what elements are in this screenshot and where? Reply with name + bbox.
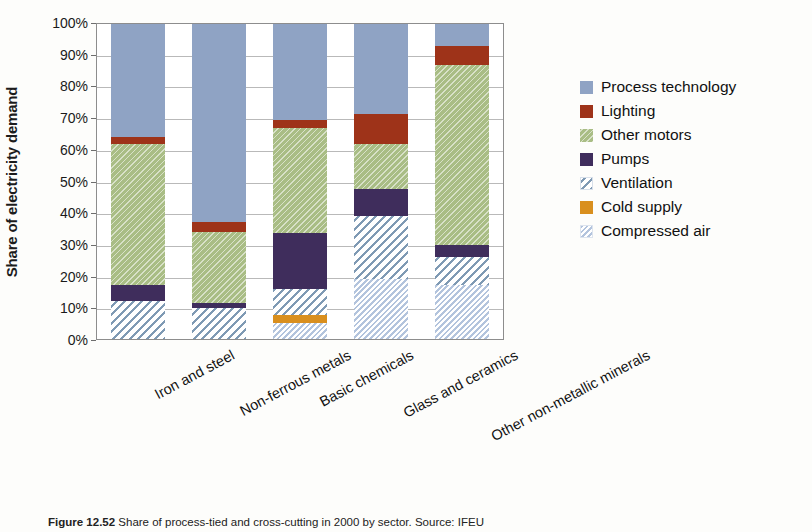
bar-segment-other-motors: [273, 128, 327, 234]
legend-swatch-process-technology: [580, 81, 593, 94]
legend-item[interactable]: Compressed air: [580, 222, 736, 240]
bar-non-ferrous-metals[interactable]: [192, 24, 246, 339]
bar-segment-process-technology: [354, 24, 408, 114]
y-axis-tick-labels: 0%10%20%30%40%50%60%70%80%90%100%: [44, 23, 92, 340]
bar-segment-ventilation: [111, 301, 165, 339]
bar-basic-chemicals[interactable]: [273, 24, 327, 339]
legend-item-label: Lighting: [601, 102, 655, 120]
legend-item-label: Process technology: [601, 78, 736, 96]
legend-item[interactable]: Process technology: [580, 78, 736, 96]
stacked-bar-chart: Share of electricity demand 0%10%20%30%4…: [0, 0, 812, 532]
bar-segment-compressed-air: [273, 323, 327, 339]
bar-other-non-metallic-minerals[interactable]: [435, 24, 489, 339]
legend-item[interactable]: Other motors: [580, 126, 736, 144]
legend-swatch-pumps: [580, 153, 593, 166]
y-axis-tick-label: 20%: [60, 269, 88, 285]
y-axis-tickmark: [91, 340, 96, 341]
legend-item[interactable]: Pumps: [580, 150, 736, 168]
legend-item[interactable]: Lighting: [580, 102, 736, 120]
x-axis-label-iron-and-steel: Iron and steel: [152, 347, 237, 402]
legend-item-label: Cold supply: [601, 198, 682, 216]
y-axis-tick-label: 60%: [60, 142, 88, 158]
bar-segment-compressed-air: [435, 285, 489, 339]
legend-item[interactable]: Cold supply: [580, 198, 736, 216]
y-axis-tick-label: 70%: [60, 110, 88, 126]
figure-caption: Figure 12.52 Share of process-tied and c…: [48, 516, 788, 528]
legend-swatch-compressed-air: [580, 225, 593, 238]
legend-item[interactable]: Ventilation: [580, 174, 736, 192]
y-axis-title: Share of electricity demand: [0, 22, 24, 342]
bar-segment-lighting: [273, 120, 327, 128]
y-axis-tick-label: 40%: [60, 205, 88, 221]
bar-segment-compressed-air: [354, 279, 408, 339]
bar-segment-lighting: [192, 222, 246, 231]
bar-segment-process-technology: [111, 24, 165, 137]
legend-swatch-lighting: [580, 105, 593, 118]
caption-text: Share of process-tied and cross-cutting …: [118, 516, 484, 528]
bar-segment-process-technology: [435, 24, 489, 46]
bar-iron-and-steel[interactable]: [111, 24, 165, 339]
legend-swatch-cold-supply: [580, 201, 593, 214]
x-axis-label-glass-and-ceramics: Glass and ceramics: [401, 347, 521, 421]
bar-segment-lighting: [435, 46, 489, 65]
bar-segment-pumps: [111, 285, 165, 301]
bar-glass-and-ceramics[interactable]: [354, 24, 408, 339]
bar-segment-other-motors: [192, 232, 246, 303]
legend-swatch-other-motors: [580, 129, 593, 142]
bar-segment-other-motors: [111, 144, 165, 286]
y-axis-tick-label: 50%: [60, 174, 88, 190]
legend-swatch-ventilation: [580, 177, 593, 190]
bar-segment-ventilation: [435, 257, 489, 285]
bar-segment-pumps: [435, 245, 489, 258]
chart-legend: Process technologyLightingOther motorsPu…: [580, 78, 736, 240]
x-axis-label-non-ferrous-metals: Non-ferrous metals: [237, 347, 353, 419]
legend-item-label: Compressed air: [601, 222, 710, 240]
legend-item-label: Ventilation: [601, 174, 673, 192]
y-axis-tick-label: 100%: [52, 15, 88, 31]
caption-figure-number: Figure 12.52: [48, 516, 115, 528]
bar-segment-process-technology: [192, 24, 246, 222]
bar-segment-ventilation: [192, 308, 246, 340]
y-axis-tick-label: 80%: [60, 78, 88, 94]
bar-segment-ventilation: [273, 289, 327, 316]
y-axis-tick-label: 10%: [60, 300, 88, 316]
bar-segment-pumps: [354, 189, 408, 216]
legend-item-label: Pumps: [601, 150, 649, 168]
bar-group: [97, 24, 503, 339]
legend-item-label: Other motors: [601, 126, 691, 144]
y-axis-tick-label: 0%: [68, 332, 88, 348]
y-axis-tick-label: 30%: [60, 237, 88, 253]
bar-segment-cold-supply: [273, 315, 327, 323]
bar-segment-process-technology: [273, 24, 327, 120]
bar-segment-other-motors: [354, 144, 408, 190]
plot-area: [96, 23, 504, 340]
bar-segment-ventilation: [354, 216, 408, 279]
bar-segment-other-motors: [435, 65, 489, 245]
bar-segment-lighting: [354, 114, 408, 144]
y-axis-tick-label: 90%: [60, 47, 88, 63]
bar-segment-pumps: [273, 233, 327, 288]
